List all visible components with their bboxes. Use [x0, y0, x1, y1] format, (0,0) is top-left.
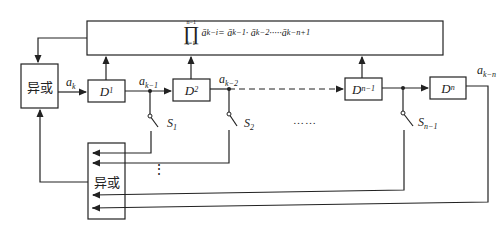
register-dn-1: Dn−1 — [345, 78, 382, 100]
signal-ak-n: ak−n — [477, 64, 496, 79]
switch-s1: S1 — [167, 117, 177, 132]
register-dn: Dn — [430, 77, 466, 99]
switch-s2: S2 — [244, 117, 254, 132]
product-symbol: n−1 ∏ i=1 — [183, 20, 199, 46]
signal-ak-2: ak−2 — [219, 73, 238, 88]
xor-bottom-label: 异或 — [88, 143, 125, 219]
horizontal-ellipsis: …… — [293, 114, 317, 126]
vertical-ellipsis: ⋮ — [152, 166, 167, 174]
signal-ak-1: ak−1 — [139, 75, 158, 90]
register-d1: D1 — [88, 80, 125, 102]
register-d2: D2 — [173, 79, 210, 101]
product-formula: n−1 ∏ i=1 āk−i = āk−1 · āk−2 ·····āk−n+1 — [183, 20, 310, 46]
signal-ak: ak — [66, 76, 76, 91]
xor-top-label: 异或 — [21, 64, 58, 108]
switch-sn-1: Sn−1 — [418, 116, 437, 131]
